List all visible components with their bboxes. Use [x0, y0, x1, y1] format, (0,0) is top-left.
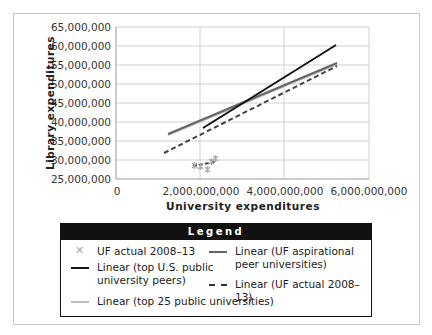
svg-text:4,000,000,000: 4,000,000,000: [247, 185, 324, 197]
y-axis-title: Library expenditures: [44, 36, 56, 170]
svg-text:50,000,000: 50,000,000: [51, 78, 111, 90]
legend-item-uf-linear: Linear (UF actual 2008–13): [207, 278, 371, 304]
svg-text:55,000,000: 55,000,000: [51, 59, 111, 71]
svg-text:0: 0: [114, 185, 121, 197]
svg-text:65,000,000: 65,000,000: [51, 21, 111, 33]
legend-item-uf-actual: ✕ UF actual 2008–13: [69, 245, 195, 258]
solid-gray-line-icon: [207, 245, 229, 258]
legend-item-aspirational: Linear (UF aspirational peer universitie…: [207, 245, 354, 271]
svg-text:6,000,000,000: 6,000,000,000: [331, 185, 408, 197]
svg-text:40,000,000: 40,000,000: [51, 116, 111, 128]
svg-text:60,000,000: 60,000,000: [51, 40, 111, 52]
legend: Legend ✕ UF actual 2008–13 Linear (top U…: [60, 223, 372, 317]
legend-item-top-us-public: Linear (top U.S. public university peers…: [69, 261, 214, 287]
svg-text:35,000,000: 35,000,000: [51, 135, 111, 147]
legend-title: Legend: [61, 224, 371, 240]
svg-text:25,000,000: 25,000,000: [51, 173, 111, 185]
x-axis-title: University expenditures: [166, 200, 320, 212]
svg-text:30,000,000: 30,000,000: [51, 154, 111, 166]
line-uf-actual-trend: [164, 66, 337, 153]
solid-light-gray-line-icon: [69, 295, 91, 308]
y-tick-labels: 65,000,000 60,000,000 55,000,000 50,000,…: [51, 21, 111, 185]
solid-black-line-icon: [69, 261, 91, 274]
line-top-us-public: [203, 45, 336, 128]
svg-text:2,000,000,000: 2,000,000,000: [163, 185, 240, 197]
dashed-line-icon: [207, 278, 229, 291]
x-marker-icon: ✕: [69, 245, 91, 258]
svg-text:45,000,000: 45,000,000: [51, 97, 111, 109]
x-tick-labels: 0 2,000,000,000 4,000,000,000 6,000,000,…: [114, 185, 408, 197]
line-aspirational: [168, 63, 337, 134]
